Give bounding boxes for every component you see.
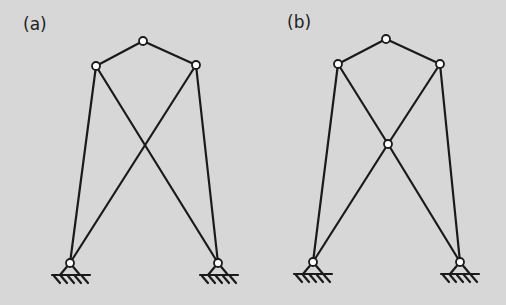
pin-joints: [66, 35, 464, 267]
truss-a: [70, 41, 218, 263]
truss-diagrams: [0, 0, 506, 305]
truss-b: [313, 39, 460, 262]
